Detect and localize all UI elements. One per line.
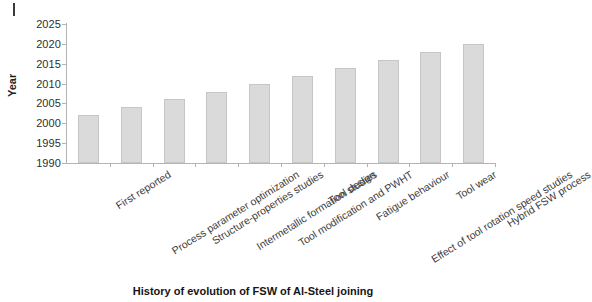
bar [249, 84, 270, 163]
x-axis-tick-mark [324, 163, 325, 167]
bar [292, 76, 313, 163]
bar [378, 60, 399, 163]
x-axis-tick-mark [281, 163, 282, 167]
bar [164, 99, 185, 163]
bar [420, 52, 441, 163]
x-axis-tick-mark [495, 163, 496, 167]
bar [78, 115, 99, 163]
y-axis-tick-mark [62, 123, 66, 124]
y-axis-tick-mark [62, 103, 66, 104]
bar [463, 44, 484, 163]
x-axis-tick-label: First reported [114, 168, 173, 211]
x-axis-tick-mark [238, 163, 239, 167]
bar [206, 92, 227, 163]
plot-area: 19901995200020052010201520202025 [67, 24, 495, 163]
x-axis-tick-label: Tool wear [454, 168, 498, 202]
bar [121, 107, 142, 163]
x-axis-title: History of evolution of FSW of Al-Steel … [0, 285, 506, 297]
x-axis-tick-mark [409, 163, 410, 167]
y-axis-tick-mark [62, 64, 66, 65]
y-axis-tick-mark [62, 143, 66, 144]
y-axis-tick-mark [62, 44, 66, 45]
x-axis-tick-mark [110, 163, 111, 167]
x-axis-tick-label: Process parameter optimization [170, 168, 302, 256]
y-axis-tick-mark [62, 84, 66, 85]
x-axis-tick-mark [195, 163, 196, 167]
x-axis-tick-mark [367, 163, 368, 167]
bar [335, 68, 356, 163]
x-axis-tick-mark [452, 163, 453, 167]
y-axis-tick-mark [62, 24, 66, 25]
y-axis-tick-mark [62, 163, 66, 164]
x-axis-tick-label: Effect of tool rotation speed studies [429, 168, 574, 265]
y-axis-title: Year [6, 74, 18, 97]
x-axis-tick-mark [153, 163, 154, 167]
